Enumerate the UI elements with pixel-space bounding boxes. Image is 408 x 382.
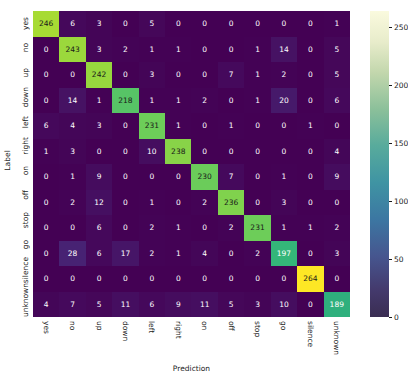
heatmap-cell: 10: [139, 139, 165, 165]
heatmap-cell: 1: [297, 215, 323, 241]
colorbar-tick-text: 150: [394, 139, 408, 148]
y-tick-yes: yes: [12, 11, 33, 36]
heatmap-cell-value: 7: [229, 173, 234, 181]
heatmap-cell-value: 2: [123, 46, 128, 54]
heatmap-cell-value: 1: [308, 224, 313, 232]
heatmap-cell: 0: [244, 266, 270, 292]
heatmap-cell: 6: [139, 292, 165, 318]
heatmap-cell-value: 1: [255, 46, 260, 54]
heatmap-cell-value: 0: [123, 71, 128, 79]
heatmap-cell: 1: [271, 215, 297, 241]
heatmap-cell: 0: [33, 164, 59, 190]
heatmap-cell: 0: [33, 88, 59, 114]
heatmap-cell: 238: [165, 139, 191, 165]
heatmap-cell-value: 0: [308, 148, 313, 156]
heatmap-cell: 231: [244, 215, 270, 241]
heatmap-cell: 10: [271, 292, 297, 318]
heatmap-cell: 7: [59, 292, 85, 318]
heatmap-cell: 1: [324, 11, 350, 37]
x-tick-unknown: unknown: [324, 317, 350, 363]
heatmap-cell: 231: [139, 113, 165, 139]
heatmap-cell-value: 7: [229, 71, 234, 79]
heatmap-cell: 0: [112, 113, 138, 139]
x-tick-label: right: [174, 321, 183, 339]
heatmap-cell: 2: [191, 190, 217, 216]
heatmap-cell-value: 246: [39, 20, 53, 28]
heatmap-cell: 0: [244, 190, 270, 216]
heatmap-cell-value: 0: [44, 250, 49, 258]
heatmap-cell-value: 5: [334, 46, 339, 54]
heatmap-cell-value: 0: [176, 71, 181, 79]
heatmap-cell: 3: [271, 190, 297, 216]
heatmap-cell: 0: [297, 88, 323, 114]
heatmap-cell-value: 3: [334, 250, 339, 258]
y-tick-label: on: [21, 166, 30, 175]
colorbar-tick-mark: [389, 317, 392, 318]
heatmap-cell: 2: [191, 88, 217, 114]
y-axis-tick-labels: yesnoupdownleftrightonoffstopgosilenceun…: [12, 11, 33, 317]
y-tick-label: stop: [21, 212, 30, 228]
x-tick-yes: yes: [33, 317, 59, 363]
heatmap-cell-value: 1: [282, 224, 287, 232]
heatmap-cell: 9: [165, 292, 191, 318]
heatmap-cell-value: 3: [255, 301, 260, 309]
heatmap-cell: 7: [218, 164, 244, 190]
heatmap-cell: 1: [33, 139, 59, 165]
heatmap-cell-value: 2: [149, 224, 154, 232]
heatmap-cell-value: 3: [282, 199, 287, 207]
heatmap-cell: 0: [112, 11, 138, 37]
heatmap-cell: 0: [59, 266, 85, 292]
heatmap-cell: 1: [165, 88, 191, 114]
heatmap-cell: 6: [86, 241, 112, 267]
heatmap-cell: 0: [165, 266, 191, 292]
heatmap-cell-value: 242: [92, 71, 106, 79]
heatmap-cell: 0: [218, 266, 244, 292]
heatmap-cell-value: 2: [70, 199, 75, 207]
heatmap-cell-value: 12: [94, 199, 104, 207]
heatmap-cell: 2: [271, 62, 297, 88]
heatmap-cell: 0: [297, 292, 323, 318]
heatmap-cell: 0: [139, 164, 165, 190]
x-axis-title: Prediction: [33, 364, 350, 373]
heatmap-cell-value: 0: [44, 275, 49, 283]
heatmap-cell: 7: [218, 62, 244, 88]
heatmap-cell: 17: [112, 241, 138, 267]
heatmap-cell-value: 20: [279, 97, 289, 105]
heatmap-cell: 246: [33, 11, 59, 37]
heatmap-cell: 1: [271, 164, 297, 190]
x-axis-title-text: Prediction: [173, 364, 210, 373]
heatmap-cell: 1: [297, 113, 323, 139]
heatmap-cell: 4: [324, 139, 350, 165]
y-tick-silence: silence: [12, 257, 33, 283]
heatmap-cell: 0: [112, 215, 138, 241]
heatmap-cell: 242: [86, 62, 112, 88]
heatmap-cell: 4: [33, 292, 59, 318]
heatmap-cell: 0: [244, 11, 270, 37]
heatmap-cell: 6: [86, 215, 112, 241]
x-tick-label: up: [95, 321, 104, 331]
heatmap-cell: 0: [33, 190, 59, 216]
heatmap-cell-value: 1: [334, 20, 339, 28]
heatmap-cell-value: 264: [303, 275, 317, 283]
heatmap-cell-value: 238: [171, 148, 185, 156]
heatmap-cell-value: 1: [149, 199, 154, 207]
heatmap-cell: 0: [86, 139, 112, 165]
x-tick-label: off: [227, 321, 236, 331]
heatmap-cell-value: 1: [44, 148, 49, 156]
heatmap-cell: 0: [324, 113, 350, 139]
heatmap-cell-value: 0: [44, 71, 49, 79]
colorbar-tick-text: 200: [394, 81, 408, 90]
heatmap-cell: 243: [59, 37, 85, 63]
heatmap-cell-value: 0: [308, 71, 313, 79]
heatmap-cell: 0: [191, 62, 217, 88]
heatmap-cell-value: 10: [279, 301, 289, 309]
heatmap-cell-value: 4: [70, 122, 75, 130]
heatmap-cell-value: 6: [97, 224, 102, 232]
heatmap-cell-value: 14: [68, 97, 78, 105]
y-tick-label: no: [21, 43, 30, 52]
heatmap-cell-value: 1: [176, 46, 181, 54]
heatmap-cell: 0: [59, 215, 85, 241]
heatmap-cell-value: 9: [176, 301, 181, 309]
x-tick-silence: silence: [297, 317, 323, 363]
